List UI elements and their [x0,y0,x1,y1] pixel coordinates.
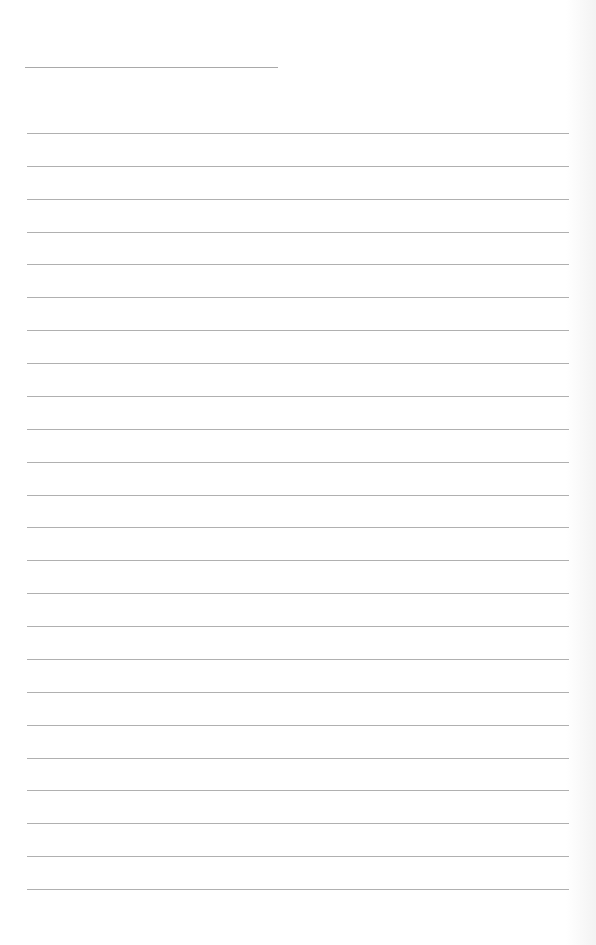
ruled-line [27,330,569,331]
ruled-line [27,232,569,233]
ruled-line [27,692,569,693]
ruled-line [27,462,569,463]
ruled-line [27,889,569,890]
ruled-line [27,626,569,627]
ruled-line [27,527,569,528]
ruled-line [27,166,569,167]
ruled-line [27,297,569,298]
ruled-line [27,856,569,857]
ruled-line [27,133,569,134]
header-name-line [25,67,278,68]
ruled-line [27,823,569,824]
ruled-line [27,790,569,791]
ruled-line [27,429,569,430]
ruled-line [27,396,569,397]
ruled-line [27,758,569,759]
ruled-line [27,560,569,561]
ruled-line [27,659,569,660]
ruled-line [27,264,569,265]
ruled-line [27,725,569,726]
lined-paper-page [0,0,596,945]
ruled-line [27,199,569,200]
ruled-line [27,363,569,364]
ruled-line [27,593,569,594]
ruled-line [27,495,569,496]
